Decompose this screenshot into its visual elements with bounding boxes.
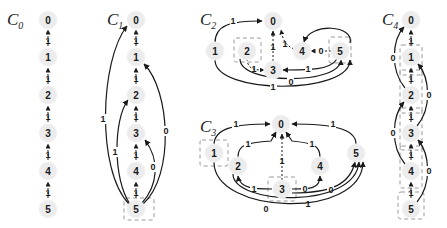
graph-title-c2: C2: [200, 10, 216, 31]
graph-title-c4: C4: [382, 10, 398, 31]
node-c0-5: 5: [39, 200, 57, 218]
svg-text:1: 1: [133, 52, 139, 63]
svg-text:0: 0: [133, 15, 139, 26]
svg-text:1: 1: [233, 119, 238, 129]
node-c0-3: 3: [39, 124, 57, 142]
svg-text:0: 0: [263, 204, 268, 214]
svg-text:1: 1: [133, 112, 138, 122]
graph-title-c0: C0: [7, 10, 23, 31]
svg-text:2: 2: [45, 90, 51, 101]
svg-text:1: 1: [408, 74, 413, 84]
svg-text:2: 2: [244, 46, 250, 57]
node-c4-1: 1: [402, 48, 420, 66]
svg-text:0: 0: [163, 126, 168, 136]
svg-text:0: 0: [270, 16, 276, 27]
node-c0-4: 4: [39, 162, 57, 180]
node-c3-5: 5: [347, 144, 365, 162]
node-c2-3: 3: [264, 61, 282, 79]
svg-text:3: 3: [133, 128, 139, 139]
svg-text:1: 1: [45, 36, 50, 46]
graph-c1: C1 1 1 1 1 1 1 1 0 0 0 1 2 3 4 5: [100, 10, 170, 220]
svg-text:5: 5: [408, 204, 414, 215]
svg-text:1: 1: [100, 114, 105, 124]
graph-c0: C0 1 1 1 1 1 0 1 2 3 4 5: [7, 10, 57, 218]
graph-figure: C0 1 1 1 1 1 0 1 2 3 4 5 C1 1 1 1: [0, 0, 447, 228]
svg-text:1: 1: [45, 74, 50, 84]
node-c1-5: 5: [127, 200, 145, 218]
svg-text:0: 0: [150, 162, 155, 172]
svg-text:3: 3: [45, 128, 51, 139]
svg-text:1: 1: [212, 46, 218, 57]
node-c4-5: 5: [402, 200, 420, 218]
svg-text:3: 3: [408, 128, 414, 139]
svg-text:0: 0: [408, 15, 414, 26]
node-c3-2: 2: [229, 157, 247, 175]
svg-text:5: 5: [45, 204, 51, 215]
svg-text:0: 0: [45, 15, 51, 26]
graph-title-c3: C3: [200, 117, 216, 138]
svg-text:1: 1: [282, 39, 287, 49]
svg-text:1: 1: [408, 188, 413, 198]
node-c1-0: 0: [127, 11, 145, 29]
svg-text:1: 1: [270, 42, 275, 52]
svg-text:5: 5: [353, 148, 359, 159]
graph-c2: C2 1 1 1 0 1 1 0 1 0 1 2 3: [200, 10, 351, 92]
svg-text:1: 1: [279, 156, 284, 166]
svg-text:1: 1: [133, 36, 138, 46]
svg-text:3: 3: [270, 65, 276, 76]
svg-text:0: 0: [390, 53, 395, 63]
svg-text:1: 1: [309, 139, 314, 149]
node-c3-4: 4: [311, 157, 329, 175]
svg-text:1: 1: [45, 150, 50, 160]
node-c2-4: 4: [293, 42, 311, 60]
node-c2-5: 5: [331, 42, 349, 60]
svg-text:4: 4: [45, 166, 51, 177]
svg-text:4: 4: [317, 161, 323, 172]
svg-text:1: 1: [408, 150, 413, 160]
svg-text:1: 1: [270, 82, 275, 92]
svg-text:1: 1: [305, 64, 310, 74]
svg-text:1: 1: [211, 148, 217, 159]
svg-text:2: 2: [408, 90, 414, 101]
svg-text:2: 2: [235, 161, 241, 172]
svg-text:1: 1: [230, 16, 235, 26]
svg-text:1: 1: [133, 188, 138, 198]
node-c1-2: 2: [127, 86, 145, 104]
svg-text:5: 5: [337, 46, 343, 57]
svg-text:1: 1: [305, 199, 310, 209]
svg-text:0: 0: [426, 90, 431, 100]
node-c0-1: 1: [39, 48, 57, 66]
svg-text:0: 0: [318, 46, 323, 56]
node-c3-3: 3: [273, 180, 291, 198]
node-c3-0: 0: [272, 115, 290, 133]
node-c1-4: 4: [127, 162, 145, 180]
node-c4-0: 0: [402, 11, 420, 29]
svg-text:1: 1: [112, 147, 117, 157]
svg-text:1: 1: [245, 139, 250, 149]
svg-text:3: 3: [279, 184, 285, 195]
node-c1-1: 1: [127, 48, 145, 66]
graph-c4: C4 1 1 1 1 1 0 0 0 0 0 1 2 3 4 5: [382, 10, 433, 219]
svg-text:1: 1: [408, 112, 413, 122]
node-c4-4: 4: [402, 162, 420, 180]
svg-text:0: 0: [278, 119, 284, 130]
svg-text:4: 4: [408, 166, 414, 177]
node-c2-0: 0: [264, 12, 282, 30]
svg-text:1: 1: [408, 52, 414, 63]
svg-text:4: 4: [133, 166, 139, 177]
node-c4-2: 2: [402, 86, 420, 104]
svg-text:1: 1: [330, 119, 335, 129]
svg-text:0: 0: [390, 128, 395, 138]
svg-text:1: 1: [133, 150, 138, 160]
node-c2-1: 1: [206, 42, 224, 60]
node-c0-2: 2: [39, 86, 57, 104]
svg-text:1: 1: [133, 74, 138, 84]
node-c1-3: 3: [127, 124, 145, 142]
svg-text:5: 5: [133, 204, 139, 215]
svg-text:2: 2: [133, 90, 139, 101]
graph-title-c1: C1: [107, 10, 123, 31]
svg-text:1: 1: [45, 188, 50, 198]
svg-text:1: 1: [408, 36, 413, 46]
graph-c3: C3 1 1 1 1 1 1 0 0 1: [200, 115, 365, 214]
svg-text:4: 4: [299, 46, 305, 57]
